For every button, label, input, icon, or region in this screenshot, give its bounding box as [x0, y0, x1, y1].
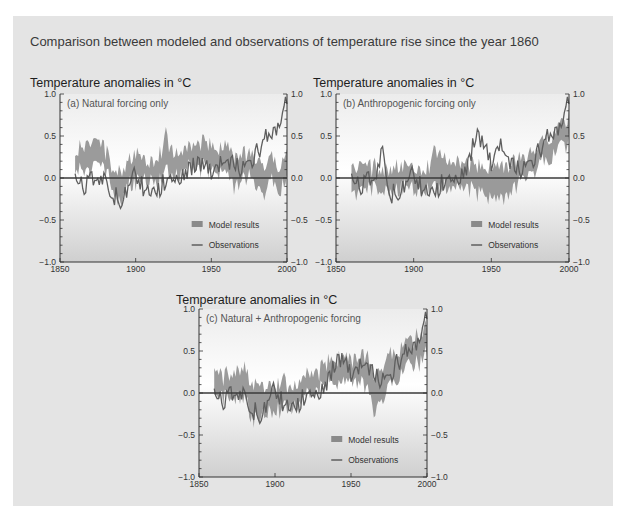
- x-tick-label: 1900: [266, 479, 285, 489]
- x-tick-label: 2000: [418, 479, 437, 489]
- y-tick-label-right: 0.5: [431, 346, 443, 356]
- y-tick-label-left: 0.0: [183, 388, 195, 398]
- y-tick-label-left: 0.5: [183, 346, 195, 356]
- panel-label: (c) Natural + Anthropogenic forcing: [206, 313, 361, 324]
- x-tick-label: 1950: [342, 479, 361, 489]
- legend-label-model: Model results: [348, 435, 399, 445]
- y-tick-label-right: −0.5: [431, 430, 448, 440]
- y-tick-label-right: 1.0: [431, 304, 443, 314]
- y-tick-label-left: −0.5: [178, 430, 195, 440]
- y-tick-label-left: 1.0: [183, 304, 195, 314]
- x-tick-label: 1850: [190, 479, 209, 489]
- legend-swatch-model: [331, 436, 342, 442]
- chart-c-natural-plus-anthropogenic: (c) Natural + Anthropogenic forcing−1.0−…: [0, 0, 626, 521]
- legend-label-observations: Observations: [348, 455, 398, 465]
- y-tick-label-right: 0.0: [431, 388, 443, 398]
